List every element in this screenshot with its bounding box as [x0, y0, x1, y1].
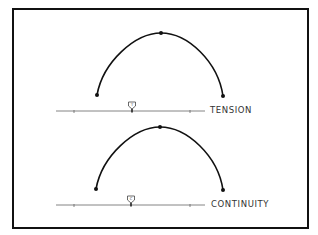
tension-curve — [97, 33, 223, 96]
continuity-start-point — [94, 187, 98, 191]
tension-label: TENSION — [210, 105, 252, 115]
continuity-peak-point — [158, 125, 162, 129]
tension-end-point — [221, 94, 225, 98]
continuity-panel: C — [56, 125, 225, 207]
continuity-end-point — [221, 188, 225, 192]
continuity-label: CONTINUITY — [211, 199, 269, 209]
tension-panel: T — [56, 31, 225, 113]
continuity-curve — [96, 127, 223, 190]
tension-peak-point — [159, 31, 163, 35]
diagram-canvas: T C — [0, 0, 318, 235]
tension-start-point — [95, 93, 99, 97]
